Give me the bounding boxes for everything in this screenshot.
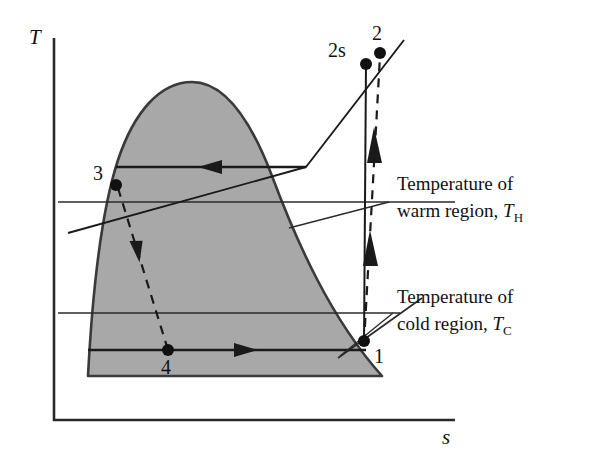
state-label-3: 3 [93,162,103,184]
isentropic-compression-line [364,64,366,343]
state-point-2 [374,47,386,59]
warm-region-temp-subscript: H [514,210,523,225]
x-axis-label: s [442,425,450,449]
annotation-warm-region: Temperature of warm region, TH [397,173,523,225]
state-label-4: 4 [161,356,171,378]
warm-region-line2: warm region, TH [397,200,523,225]
state-label-1: 1 [374,345,384,367]
ts-diagram-figure: 1 2 2s 3 4 T s Temperature of warm regio… [0,0,597,452]
actual-compression-arrowhead-icon-upper [367,127,382,163]
ts-diagram-canvas: 1 2 2s 3 4 T s Temperature of warm regio… [0,0,597,452]
warm-region-leader-line [289,202,389,228]
warm-region-line2-prefix: warm region, [397,200,503,221]
state-point-1 [358,335,370,347]
y-axis-label: T [29,25,42,49]
cold-region-line1: Temperature of [397,286,514,307]
warm-region-line1: Temperature of [397,173,514,194]
state-point-3 [110,179,122,191]
state-label-2: 2 [372,22,382,44]
annotation-cold-region: Temperature of cold region, TC [397,286,514,338]
state-point-2s [360,58,372,70]
state-point-4 [162,344,174,356]
cold-region-line2-prefix: cold region, [397,313,493,334]
cold-region-temp-subscript: C [503,323,512,338]
process-compression-isentropic-1-2s [364,64,366,343]
cold-region-line2: cold region, TC [397,313,512,338]
state-label-2s: 2s [328,39,346,61]
